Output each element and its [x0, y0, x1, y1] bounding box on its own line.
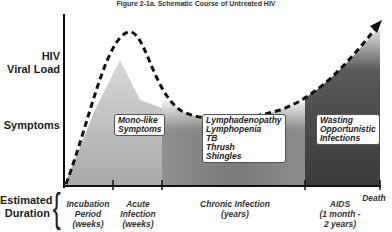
- phase-acute: Acute Infection (weeks): [112, 199, 164, 229]
- phase-chronic: Chronic Infection (years): [180, 199, 290, 219]
- phase-aids: AIDS (1 month - 2 years): [310, 199, 370, 229]
- symptom-box-aids: Wasting Opportunistic Infections: [316, 114, 380, 145]
- symptom-box-chronic: Lymphadenopathy Lymphopenia TB Thrush Sh…: [202, 114, 286, 163]
- symptom-box-acute: Mono-like Symptoms: [114, 114, 165, 136]
- phase-incubation: Incubation Period (weeks): [62, 199, 114, 229]
- phase-death: Death: [356, 193, 392, 203]
- y-label-duration: Estimated Duration: [0, 194, 50, 220]
- y-label-viral-load: HIV Viral Load: [2, 50, 60, 76]
- brace-icon: {: [53, 188, 61, 228]
- y-label-symptoms: Symptoms: [2, 119, 60, 132]
